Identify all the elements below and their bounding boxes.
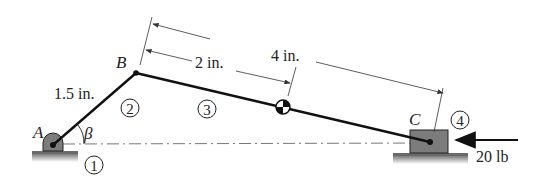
pin-a [50, 142, 56, 148]
svg-text:4: 4 [456, 113, 464, 129]
pin-c [427, 139, 433, 145]
label-point-c: C [409, 110, 421, 129]
ground-a [32, 151, 78, 162]
label-point-b: B [116, 53, 127, 72]
label-dim-ab: 1.5 in. [54, 85, 94, 102]
svg-text:3: 3 [203, 102, 211, 118]
label-angle-beta: β [83, 124, 93, 143]
dim-2in-right [236, 71, 290, 83]
ground-c [393, 153, 468, 164]
svg-text:1: 1 [90, 158, 98, 174]
link-number-2: 2 [121, 99, 139, 117]
pin-b [133, 70, 139, 76]
link-number-3: 3 [198, 100, 216, 118]
svg-text:2: 2 [126, 101, 134, 117]
label-point-a: A [32, 123, 44, 142]
extension-line-com [288, 67, 296, 96]
center-line [63, 143, 430, 144]
label-dim-2in: 2 in. [195, 54, 223, 71]
extension-line-b [140, 17, 152, 65]
dim-4in-right [316, 62, 443, 93]
mechanism-diagram: A B C β 1.5 in. 2 in. 4 in. 20 lb 1 2 3 … [0, 0, 539, 188]
center-of-mass-icon [276, 100, 290, 114]
extension-line-c [434, 88, 443, 132]
label-force: 20 lb [476, 148, 508, 165]
label-dim-4in: 4 in. [271, 47, 299, 64]
dim-2in-left [146, 50, 192, 61]
link-number-1: 1 [85, 156, 103, 174]
link-number-4: 4 [451, 111, 469, 129]
dim-4in-left [153, 24, 210, 39]
link-ab [53, 73, 136, 145]
